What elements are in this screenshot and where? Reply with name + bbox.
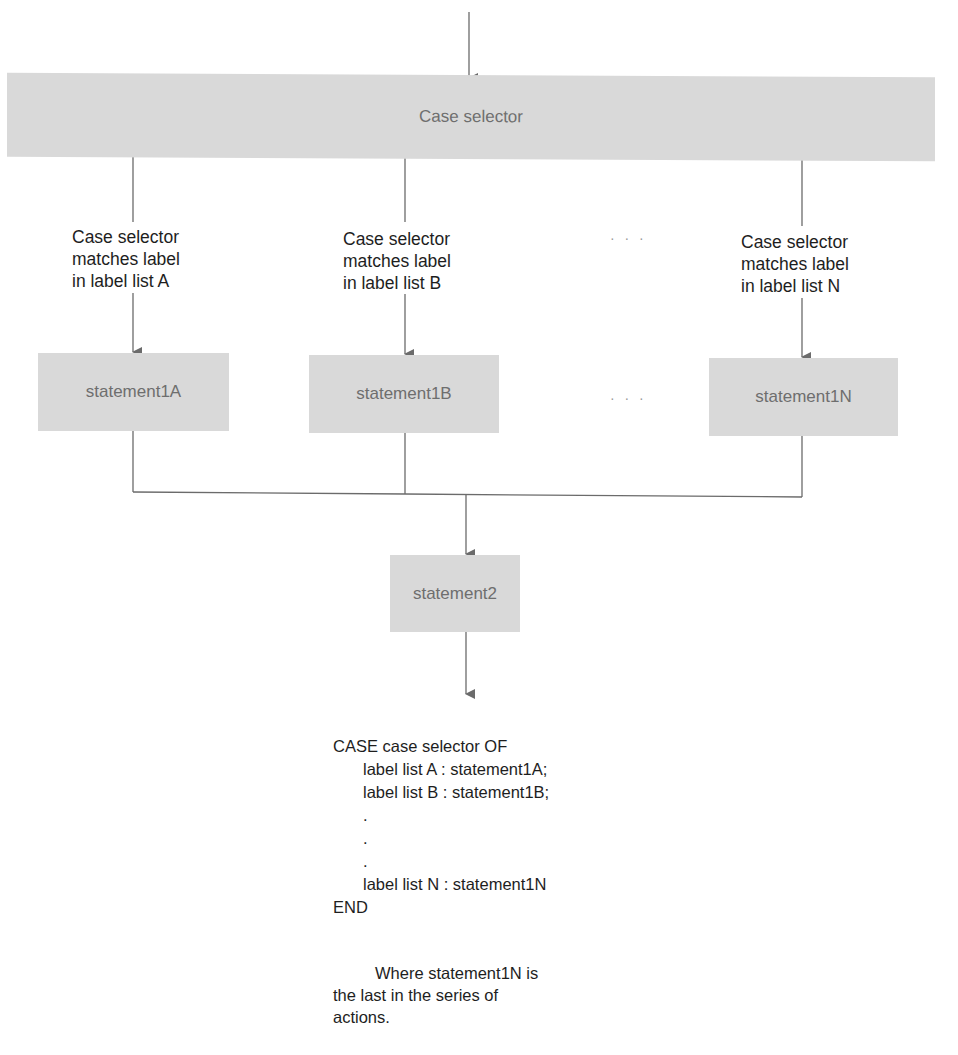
condition-line: Case selector: [741, 231, 849, 253]
branch-b-condition: Case selector matches label in label lis…: [343, 228, 451, 294]
ellipsis-statements: · · ·: [610, 390, 647, 406]
code-line: END: [333, 896, 549, 919]
condition-line: Case selector: [343, 228, 451, 250]
statement-1n-box: statement1N: [709, 358, 898, 436]
case-selector-box: Case selector: [7, 73, 935, 162]
statement-1a-box: statement1A: [38, 353, 229, 431]
statement-1a-label: statement1A: [86, 382, 181, 402]
statement-1b-box: statement1B: [309, 355, 499, 433]
condition-line: matches label: [343, 250, 451, 272]
code-line: .: [333, 804, 549, 827]
join-line: [133, 492, 802, 497]
branch-a-condition: Case selector matches label in label lis…: [72, 226, 180, 292]
code-line: .: [333, 850, 549, 873]
code-line: label list B : statement1B;: [333, 781, 549, 804]
condition-line: Case selector: [72, 226, 180, 248]
code-line: CASE case selector OF: [333, 735, 549, 758]
code-line: label list N : statement1N: [333, 873, 549, 896]
case-code-listing: CASE case selector OF label list A : sta…: [333, 735, 549, 919]
condition-line: matches label: [741, 253, 849, 275]
statement-2-box: statement2: [390, 555, 520, 632]
condition-line: matches label: [72, 248, 180, 270]
note-first-line: Where statement1N is: [333, 962, 623, 984]
condition-line: in label list B: [343, 272, 451, 294]
branch-n-condition: Case selector matches label in label lis…: [741, 231, 849, 297]
code-line: label list A : statement1A;: [333, 758, 549, 781]
condition-line: in label list N: [741, 275, 849, 297]
condition-line: in label list A: [72, 270, 180, 292]
statement-2-label: statement2: [413, 584, 497, 604]
note-rest: the last in the series of actions.: [333, 984, 533, 1028]
ellipsis-conditions: · · ·: [610, 230, 647, 246]
case-selector-label: Case selector: [419, 107, 523, 128]
explanatory-note: Where statement1N is the last in the ser…: [333, 962, 623, 1028]
statement-1b-label: statement1B: [356, 384, 451, 404]
code-line: .: [333, 827, 549, 850]
statement-1n-label: statement1N: [755, 387, 851, 407]
